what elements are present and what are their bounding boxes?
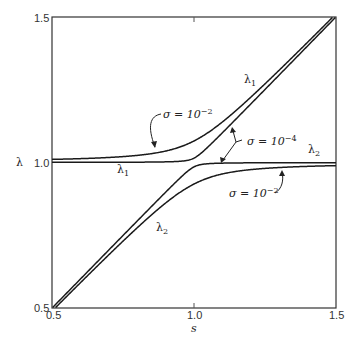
annotation-sigma-1e-2-lower: σ = 10−2 [229,170,285,200]
svg-text:λ1: λ1 [244,73,256,88]
arrow-line-down [223,142,236,160]
arrowhead-up-icon [230,127,236,133]
label-lambda2-right: λ2 [308,143,320,158]
svg-text:σ = 10−2: σ = 10−2 [229,186,279,200]
label-lambda1-upper: λ1 [244,73,256,88]
y-tick-label-mid: 1.0 [34,157,49,169]
arrowhead-icon [151,141,157,148]
x-tick-label-left: 0.5 [46,309,61,321]
y-axis-label: λ [16,156,23,169]
curve-2 [56,166,336,308]
svg-text:σ = 10−2: σ = 10−2 [163,107,213,121]
arrow-line-up [233,131,242,142]
svg-text:λ2: λ2 [156,221,168,236]
arrowhead-icon [279,170,285,176]
annotation-sigma-1e-4: σ = 10−4 [220,127,297,163]
svg-text:λ2: λ2 [308,143,320,158]
eigenvalue-chart: 1.5 1.0 0.5 0.5 1.0 1.5 λ s λ1 λ1 λ2 λ2 … [0,0,359,345]
annotation-sigma-1e-2-upper: σ = 10−2 [150,107,212,148]
svg-text:λ1: λ1 [117,163,129,178]
label-lambda1-flat: λ1 [117,163,129,178]
label-lambda2-lower: λ2 [156,221,168,236]
svg-text:σ = 10−4: σ = 10−4 [247,134,297,148]
y-tick-label-top: 1.5 [34,12,49,24]
x-tick-label-right: 1.5 [329,309,344,321]
x-tick-label-mid: 1.0 [187,309,202,321]
x-axis-label: s [191,322,197,335]
curves [52,17,336,307]
